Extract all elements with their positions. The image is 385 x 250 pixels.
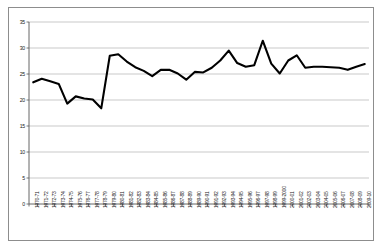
data-series-line bbox=[33, 41, 365, 109]
axis-lines bbox=[29, 22, 369, 204]
x-axis-tick-label: 1986-87 bbox=[171, 191, 176, 208]
x-axis-tick-label: 2008-09 bbox=[358, 191, 363, 208]
x-axis-tick-label: 1976-77 bbox=[86, 191, 91, 208]
x-axis-tick-label: 1973-74 bbox=[61, 191, 66, 208]
x-axis-tick-label: 1977-78 bbox=[95, 191, 100, 208]
x-axis-tick-label: 1998-99 bbox=[273, 191, 278, 208]
x-axis-tick-label: 1988-89 bbox=[188, 191, 193, 208]
x-axis-tick-label: 1997-98 bbox=[265, 191, 270, 208]
y-axis-tick-label: 20 bbox=[9, 97, 25, 103]
x-axis-tick-label: 1985-86 bbox=[163, 191, 168, 208]
x-axis-tick-label: 2001-02 bbox=[299, 191, 304, 208]
x-axis-tick-label: 1993-94 bbox=[231, 191, 236, 208]
x-axis-tick-label: 1994-95 bbox=[239, 191, 244, 208]
grid-lines bbox=[29, 22, 369, 178]
x-axis-tick-label: 2006-07 bbox=[341, 191, 346, 208]
x-axis-tick-label: 1995-96 bbox=[248, 191, 253, 208]
x-axis-tick-label: 1999-2000 bbox=[282, 186, 287, 208]
y-axis-tick-label: 35 bbox=[9, 19, 25, 25]
x-axis-tick-label: 1980-81 bbox=[120, 191, 125, 208]
y-axis-tick-label: 25 bbox=[9, 71, 25, 77]
x-axis-tick-label: 1982-83 bbox=[137, 191, 142, 208]
y-axis-tick-label: 0 bbox=[9, 201, 25, 207]
y-axis-tick-label: 5 bbox=[9, 175, 25, 181]
x-axis-tick-label: 2000-01 bbox=[290, 191, 295, 208]
x-axis-tick-label: 1990-91 bbox=[205, 191, 210, 208]
x-axis-tick-label: 1978-79 bbox=[103, 191, 108, 208]
x-axis-tick-label: 1972-73 bbox=[52, 191, 57, 208]
y-axis-tick-label: 30 bbox=[9, 45, 25, 51]
x-axis-tick-label: 1974-75 bbox=[69, 191, 74, 208]
y-axis-tick-label: 15 bbox=[9, 123, 25, 129]
x-axis-tick-label: 1987-88 bbox=[180, 191, 185, 208]
y-axis-tick-label: 10 bbox=[9, 149, 25, 155]
x-axis-tick-label: 1996-97 bbox=[256, 191, 261, 208]
line-chart bbox=[0, 0, 385, 250]
x-axis-tick-label: 2009-10 bbox=[367, 191, 372, 208]
x-axis-tick-label: 1992-93 bbox=[222, 191, 227, 208]
x-axis-tick-label: 2007-08 bbox=[350, 191, 355, 208]
x-axis-tick-label: 2002-03 bbox=[307, 191, 312, 208]
x-axis-tick-label: 1975-76 bbox=[78, 191, 83, 208]
x-axis-tick-label: 1970-71 bbox=[35, 191, 40, 208]
x-axis-tick-label: 1984-85 bbox=[154, 191, 159, 208]
x-axis-tick-label: 1971-72 bbox=[44, 191, 49, 208]
x-axis-tick-label: 2003-04 bbox=[316, 191, 321, 208]
x-axis-tick-label: 2004-05 bbox=[324, 191, 329, 208]
x-axis-tick-label: 1983-84 bbox=[146, 191, 151, 208]
x-axis-tick-label: 1989-90 bbox=[197, 191, 202, 208]
x-axis-tick-label: 1991-92 bbox=[214, 191, 219, 208]
x-axis-tick-label: 1979-80 bbox=[112, 191, 117, 208]
x-axis-tick-label: 1981-82 bbox=[129, 191, 134, 208]
x-axis-tick-label: 2005-06 bbox=[333, 191, 338, 208]
